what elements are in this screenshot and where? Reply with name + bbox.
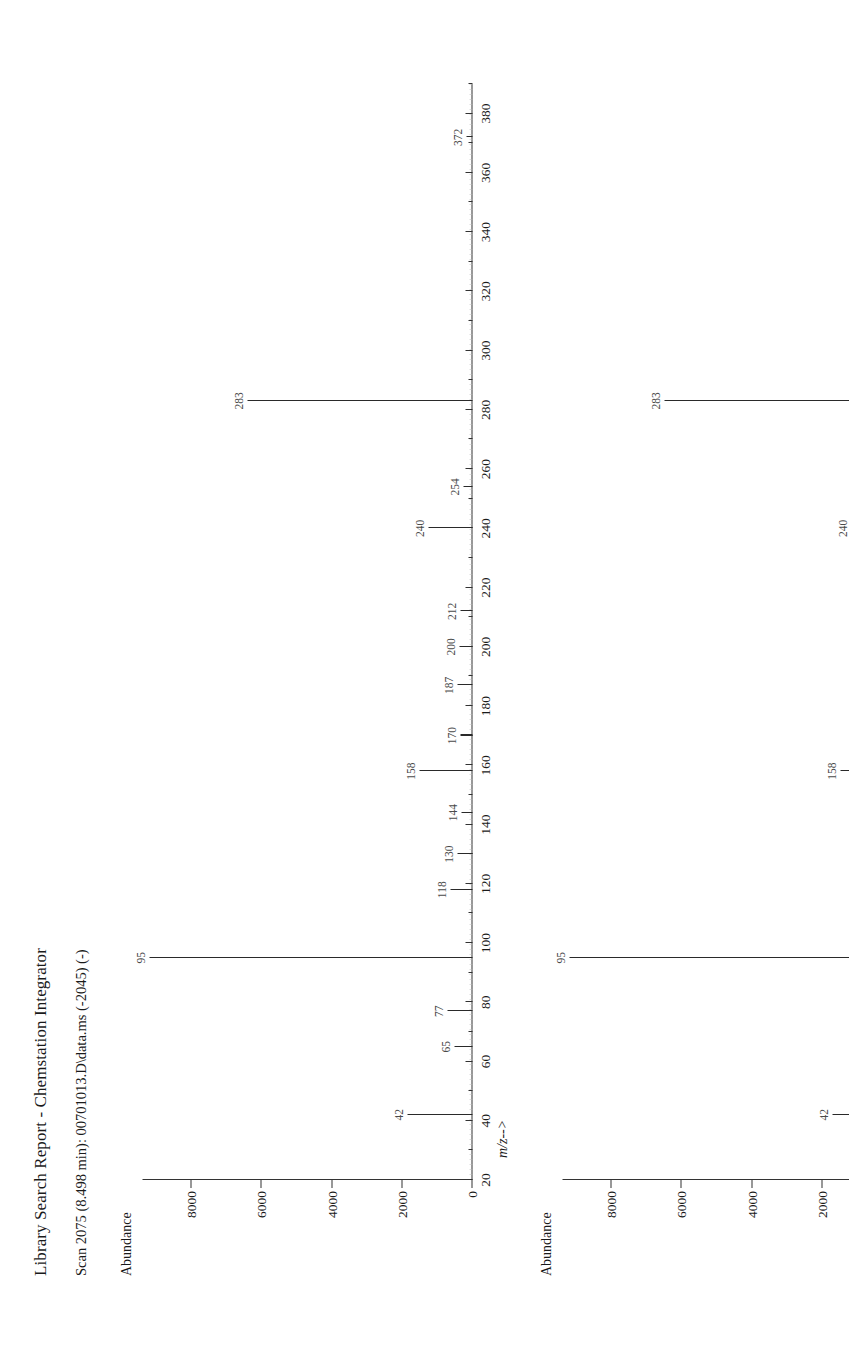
x-tick [465, 113, 472, 114]
x-tick [468, 1031, 472, 1032]
x-tick [468, 142, 472, 143]
scan-mass-spectrum: Abundance m/z--> 02000400060008000204060… [120, 66, 520, 1276]
x-tick [465, 409, 472, 410]
peak-label: 240 [836, 520, 848, 537]
y-tick [680, 1180, 681, 1188]
x-tick-label: 60 [477, 1055, 493, 1069]
x-tick [468, 261, 472, 262]
x-tick [468, 675, 472, 676]
spectrum-peak [460, 735, 472, 736]
y-tick [260, 1180, 261, 1188]
y-axis-bottom [562, 1179, 849, 1180]
spectrum-peak [832, 1114, 849, 1115]
x-tick-label: 200 [477, 637, 493, 657]
x-tick-label: 220 [477, 577, 493, 597]
peak-label: 65 [439, 1041, 451, 1053]
peak-label: 283 [232, 392, 244, 409]
x-tick [468, 1090, 472, 1091]
y-tick-label: 4000 [744, 1191, 760, 1218]
y-tick-label: 6000 [673, 1191, 689, 1218]
x-tick-label: 300 [477, 340, 493, 360]
page-title: Library Search Report - Chemstation Inte… [30, 948, 50, 1276]
spectrum-peak [428, 527, 472, 528]
peak-label: 372 [451, 129, 463, 146]
peak-label: 158 [404, 763, 416, 780]
x-tick [468, 616, 472, 617]
peak-label: 200 [444, 638, 456, 655]
spectrum-peak [407, 1114, 472, 1115]
x-tick [468, 557, 472, 558]
x-tick-label: 20 [477, 1173, 493, 1187]
y-tick [331, 1180, 332, 1188]
x-tick [465, 1061, 472, 1062]
peak-label: 170 [445, 727, 457, 744]
spectrum-peak [466, 136, 472, 137]
y-axis-label-top: Abundance [118, 1212, 134, 1276]
spectrum-peak [247, 400, 472, 401]
x-tick [465, 1179, 472, 1180]
x-tick-label: 360 [477, 163, 493, 183]
x-tick-label: 80 [477, 996, 493, 1010]
spectrum-peak [457, 684, 472, 685]
x-tick-label: 380 [477, 104, 493, 124]
x-tick [468, 972, 472, 973]
spectrum-peak [463, 486, 472, 487]
y-tick-label: 0 [464, 1191, 480, 1198]
x-tick [465, 290, 472, 291]
x-tick [465, 1120, 472, 1121]
x-tick [465, 824, 472, 825]
plot-area-bottom: m/z--> #220: Furanyl fentanyl 0200040006… [562, 84, 849, 1180]
x-tick [468, 320, 472, 321]
spectrum-peak [447, 1010, 472, 1011]
peak-label: 77 [432, 1005, 444, 1017]
spectrum-peak [419, 770, 472, 771]
x-tick [468, 83, 472, 84]
spectrum-peak [460, 610, 472, 611]
x-tick [465, 350, 472, 351]
y-tick-label: 8000 [603, 1191, 619, 1218]
spectrum-peak [840, 770, 849, 771]
x-tick-label: 240 [477, 518, 493, 538]
x-tick [465, 883, 472, 884]
spectrum-peak [450, 889, 472, 890]
x-tick [465, 172, 472, 173]
peak-label: 212 [445, 603, 457, 620]
x-tick-label: 120 [477, 874, 493, 894]
peak-label: 42 [392, 1109, 404, 1121]
peak-label: 240 [413, 520, 425, 537]
spectrum-peak [664, 400, 849, 401]
x-tick [465, 764, 472, 765]
peak-label: 130 [442, 846, 454, 863]
peak-label: 95 [554, 952, 566, 964]
x-tick-label: 180 [477, 696, 493, 716]
peak-label: 158 [825, 763, 837, 780]
peak-label: 283 [649, 392, 661, 409]
x-tick-label: 260 [477, 459, 493, 479]
spectrum-peak [149, 957, 472, 958]
x-tick [468, 498, 472, 499]
x-tick-label: 320 [477, 281, 493, 301]
peak-label: 254 [448, 478, 460, 495]
y-tick [751, 1180, 752, 1188]
y-tick [821, 1180, 822, 1188]
y-tick [401, 1180, 402, 1188]
report-sheet: Library Search Report - Chemstation Inte… [0, 0, 849, 1348]
library-mass-spectrum: Abundance m/z--> #220: Furanyl fentanyl … [540, 66, 849, 1276]
report-subtitle: Scan 2075 (8.498 min): 00701013.D\data.m… [72, 949, 89, 1276]
y-tick-label: 2000 [394, 1191, 410, 1218]
spectrum-peak [569, 957, 849, 958]
x-tick-label: 160 [477, 755, 493, 775]
x-tick-label: 140 [477, 814, 493, 834]
x-axis-label-top: m/z--> [494, 1120, 510, 1158]
x-tick-label: 340 [477, 222, 493, 242]
x-tick [468, 379, 472, 380]
spectrum-peak [454, 1046, 472, 1047]
peak-label: 144 [446, 804, 458, 821]
x-tick [465, 1001, 472, 1002]
y-tick-label: 8000 [183, 1191, 199, 1218]
spectrum-peak [461, 812, 472, 813]
x-tick [465, 231, 472, 232]
x-tick [468, 438, 472, 439]
spectrum-peak [459, 646, 472, 647]
y-tick [610, 1180, 611, 1188]
